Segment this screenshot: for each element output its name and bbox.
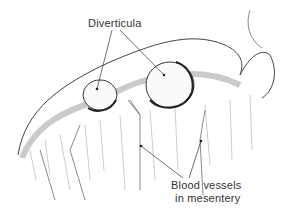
label-diverticula: Diverticula	[88, 17, 142, 29]
colon-muscle-band	[22, 74, 240, 158]
label-blood-vessels-line2: in mesentery	[175, 192, 240, 204]
mesentery-texture	[30, 95, 252, 190]
colon-outer-wall	[18, 39, 242, 155]
colon-upper-edge	[248, 10, 262, 48]
colon-right-bulge	[240, 52, 274, 98]
label-blood-vessels-line1: Blood vessels	[171, 179, 241, 191]
diverticula-illustration: Diverticula Blood vessels in mesentery	[0, 0, 281, 216]
